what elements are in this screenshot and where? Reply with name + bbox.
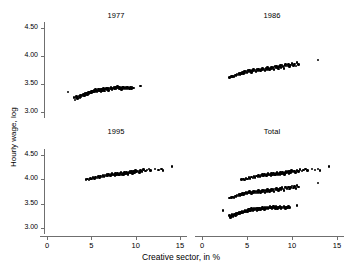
data-point (270, 66, 273, 69)
data-point (245, 70, 248, 73)
data-point (106, 174, 109, 177)
data-point (275, 65, 278, 68)
data-point (243, 211, 246, 214)
data-point (282, 207, 285, 210)
y-axis-title: Hourly wage, log (9, 107, 18, 167)
data-point (122, 172, 125, 175)
data-point (248, 69, 251, 72)
data-point (232, 215, 235, 218)
data-point (126, 172, 129, 175)
data-point (247, 191, 250, 194)
data-point (267, 189, 270, 192)
data-point (264, 174, 267, 177)
x-tick-label: 0 (187, 241, 217, 250)
data-point (252, 209, 255, 212)
data-point (248, 192, 251, 195)
data-point (311, 168, 314, 171)
data-point (244, 193, 247, 196)
data-point (279, 205, 282, 208)
data-point (255, 70, 258, 73)
data-point (243, 210, 246, 213)
panel-title-1995: 1995 (44, 127, 188, 136)
panel-title-1977: 1977 (44, 11, 188, 20)
data-point (261, 67, 264, 70)
data-point (239, 194, 242, 197)
data-point (266, 206, 269, 209)
data-point (105, 175, 108, 178)
data-point (116, 172, 119, 175)
data-point (129, 170, 132, 173)
data-point (242, 211, 245, 214)
data-point (280, 207, 283, 210)
data-point (90, 178, 93, 181)
data-point (248, 176, 251, 179)
data-point (160, 168, 163, 171)
data-point (292, 170, 295, 173)
data-point (124, 88, 127, 91)
data-point (81, 94, 84, 97)
data-point (139, 85, 142, 88)
data-point (289, 171, 292, 174)
data-point (257, 189, 260, 192)
data-point (255, 207, 258, 210)
data-point (131, 172, 134, 175)
data-point (269, 205, 272, 208)
data-point (87, 92, 90, 95)
data-point (118, 86, 121, 89)
data-point (280, 172, 283, 175)
data-point (231, 196, 234, 199)
data-point (250, 207, 253, 210)
data-point (265, 189, 268, 192)
data-point (260, 68, 263, 71)
data-point (246, 210, 249, 213)
data-point (270, 206, 273, 209)
data-point (251, 208, 254, 211)
x-tick (337, 237, 338, 240)
data-point (281, 64, 284, 67)
data-point (234, 214, 237, 217)
data-point (252, 177, 255, 180)
data-point (287, 186, 290, 189)
data-point (255, 175, 258, 178)
data-point (265, 175, 268, 178)
data-point (261, 189, 264, 192)
data-point (263, 189, 266, 192)
data-point (275, 206, 278, 209)
data-point (272, 172, 275, 175)
data-point (265, 207, 268, 210)
data-point (238, 193, 241, 196)
data-point (268, 206, 271, 209)
data-point (125, 86, 128, 89)
data-point (98, 90, 101, 93)
data-point (261, 173, 264, 176)
data-point (228, 197, 231, 200)
data-point (120, 88, 123, 91)
data-point (319, 169, 322, 172)
data-point (281, 206, 284, 209)
data-point (288, 65, 291, 68)
x-tick-label: 0 (32, 241, 62, 250)
data-point (105, 87, 108, 90)
data-point (82, 93, 85, 96)
data-point (82, 95, 85, 98)
data-point (103, 90, 106, 93)
scatter-plot-matrix: 19773.003.504.004.50198619953.003.504.00… (0, 0, 362, 269)
data-point (266, 190, 269, 193)
y-tick-label: 4.50 (10, 23, 38, 30)
data-point (239, 73, 242, 76)
data-point (249, 191, 252, 194)
data-point (125, 171, 128, 174)
data-point (295, 187, 298, 190)
data-point (116, 85, 119, 88)
data-point (273, 190, 276, 193)
data-point (122, 87, 125, 90)
data-point (294, 171, 297, 174)
data-point (253, 207, 256, 210)
data-point (236, 194, 239, 197)
data-point (79, 96, 82, 99)
data-point (254, 69, 257, 72)
data-point (92, 176, 95, 179)
data-point (130, 170, 133, 173)
data-point (121, 173, 124, 176)
data-point (115, 173, 118, 176)
